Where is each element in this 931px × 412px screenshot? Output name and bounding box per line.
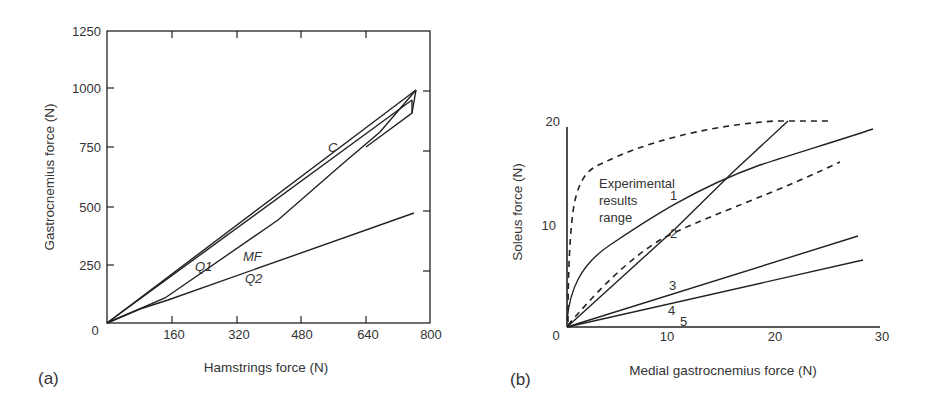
panel-b-x-axis-label: Medial gastrocnemius force (N) xyxy=(629,363,817,378)
label-q2: Q2 xyxy=(245,271,263,286)
b-y-tick-10: 10 xyxy=(542,218,556,233)
curve-q1 xyxy=(107,100,412,323)
panel-b-y-axis-label: Soleus force (N) xyxy=(510,163,525,261)
x-tick-480: 480 xyxy=(291,327,313,342)
panel-a-left-ticks xyxy=(107,88,114,265)
y-tick-1250: 1250 xyxy=(72,24,101,39)
panel-a-y-axis-label: Gastrocnemius force (N) xyxy=(42,103,57,250)
curve-q2 xyxy=(107,213,414,323)
panel-a-label: (a) xyxy=(38,369,59,388)
label-q1: Q1 xyxy=(195,259,212,274)
panel-a-frame xyxy=(107,31,430,323)
annotation-range: range xyxy=(599,210,632,225)
x-tick-160: 160 xyxy=(163,327,185,342)
panel-b-chart: 0 10 20 30 20 10 Medial gastrocnemius fo… xyxy=(510,114,889,389)
figure-canvas: 1250 1000 750 500 250 0 160 320 480 640 … xyxy=(0,0,931,412)
label-curve-4: 4 xyxy=(668,303,675,318)
label-curve-3: 3 xyxy=(669,278,676,293)
y-tick-1000: 1000 xyxy=(72,81,101,96)
b-x-tick-30: 30 xyxy=(875,329,889,344)
b-origin-label: 0 xyxy=(552,328,559,343)
x-tick-640: 640 xyxy=(357,327,379,342)
panel-a-chart: 1250 1000 750 500 250 0 160 320 480 640 … xyxy=(38,24,442,388)
curve-c xyxy=(107,90,416,323)
annotation-results: results xyxy=(599,193,638,208)
panel-a-top-ticks xyxy=(172,31,366,38)
x-tick-320: 320 xyxy=(228,327,250,342)
label-c: C xyxy=(328,140,338,155)
panel-b-label: (b) xyxy=(510,370,531,389)
label-curve-1: 1 xyxy=(670,188,677,203)
panel-a-bottom-ticks xyxy=(172,316,366,323)
curve-3 xyxy=(567,236,858,327)
annotation-experimental: Experimental xyxy=(599,176,675,191)
curve-4 xyxy=(567,260,863,327)
label-curve-5: 5 xyxy=(680,314,687,329)
panel-a-right-ticks xyxy=(423,91,430,271)
panel-a-x-axis-label: Hamstrings force (N) xyxy=(204,360,329,375)
label-curve-2: 2 xyxy=(670,226,677,241)
label-mf: MF xyxy=(243,249,263,264)
b-y-tick-20: 20 xyxy=(546,114,560,129)
b-x-tick-10: 10 xyxy=(660,329,674,344)
b-x-tick-20: 20 xyxy=(768,329,782,344)
x-tick-800: 800 xyxy=(420,327,442,342)
y-tick-750: 750 xyxy=(79,140,101,155)
y-tick-500: 500 xyxy=(79,200,101,215)
x-tick-0: 0 xyxy=(91,323,98,338)
y-tick-250: 250 xyxy=(79,258,101,273)
